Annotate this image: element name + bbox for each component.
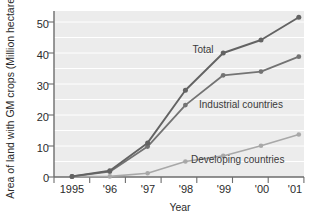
x-tick-label-00: '00 [255, 183, 269, 195]
data-point-total-98 [183, 88, 188, 93]
data-point-total-99 [221, 51, 226, 56]
x-tick-label-96: '96 [103, 183, 117, 195]
data-point-developing-01 [297, 132, 302, 137]
series-annotation-total: Total [192, 44, 213, 55]
data-point-industrial-99 [221, 73, 226, 78]
data-point-developing-00 [259, 143, 264, 148]
chart-container: 50 40 30 20 10 0 1995 '96 '97 '98 '99 '0… [0, 0, 316, 215]
series-annotation-industrial: Industrial countries [199, 99, 283, 110]
x-tick-label-97: '97 [141, 183, 155, 195]
data-point-total-96 [107, 168, 112, 173]
x-axis-title: Year [169, 201, 191, 213]
data-point-industrial-00 [259, 69, 264, 74]
data-point-total-1995 [70, 174, 75, 179]
x-tick-label-98: '98 [179, 183, 193, 195]
data-point-developing-96 [108, 174, 113, 179]
x-tick-label-1995: 1995 [60, 183, 84, 195]
data-point-total-00 [259, 38, 264, 43]
data-point-total-97 [145, 140, 150, 145]
data-point-industrial-01 [296, 54, 301, 59]
y-tick-label-0: 0 [43, 172, 49, 184]
data-point-developing-98 [183, 159, 188, 164]
y-tick-label-30: 30 [37, 80, 49, 92]
data-point-total-01 [296, 15, 301, 20]
data-point-developing-97 [145, 171, 150, 176]
y-axis-title: Area of land with GM crops (Million hect… [4, 0, 16, 199]
y-tick-label-50: 50 [37, 18, 49, 30]
x-tick-label-99: '99 [217, 183, 231, 195]
y-tick-label-20: 20 [37, 111, 49, 123]
series-annotation-developing: Developing countries [191, 154, 284, 165]
gm-crops-line-chart: 50 40 30 20 10 0 1995 '96 '97 '98 '99 '0… [0, 0, 316, 215]
y-tick-label-40: 40 [37, 49, 49, 61]
x-tick-label-01: '01 [288, 183, 302, 195]
y-tick-label-10: 10 [37, 142, 49, 154]
data-point-industrial-98 [183, 103, 188, 108]
